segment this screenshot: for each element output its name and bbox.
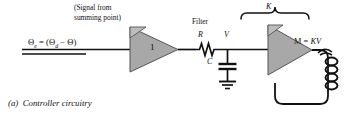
source-note-line-1: (Signal from [74, 4, 112, 12]
coil-lead-arc [320, 53, 332, 55]
output-equation-equals: = [304, 37, 309, 46]
error-equation-lhs-subscript: e [34, 43, 37, 49]
output-equation-lhs: M [294, 37, 301, 46]
amplifier-1-label: 1 [150, 43, 155, 53]
gain-brace [241, 7, 309, 19]
source-note-line-2: summing point) [74, 14, 121, 22]
caption-index: (a) [8, 98, 18, 108]
resistor-label: R [198, 31, 203, 40]
output-equation-rhs: KV [310, 37, 321, 46]
gain-brace-label: K [266, 3, 271, 12]
error-equation-rhs-tail: − Θ) [58, 37, 76, 47]
output-equation: M = KV [294, 37, 321, 46]
figure-caption: (a) Controller circuitry [8, 99, 92, 109]
error-equation: Θe = (Θd − Θ) [28, 38, 76, 49]
node-voltage-label: V [224, 31, 229, 40]
filter-label: Filter [192, 18, 208, 26]
caption-text: Controller circuitry [23, 98, 92, 108]
error-equation-equals: = [39, 37, 44, 47]
resistor-symbol [196, 44, 218, 56]
amplifier-2-body [268, 25, 312, 75]
capacitor-label: C [207, 58, 212, 67]
error-equation-rhs: (Θ [46, 37, 55, 47]
